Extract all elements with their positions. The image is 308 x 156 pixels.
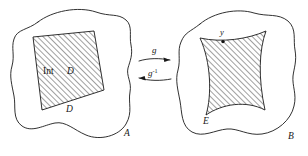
figure-canvas: Int D D A y E B g g-1	[0, 0, 308, 156]
region-e-shape	[200, 31, 266, 115]
set-a-label: A	[123, 128, 130, 138]
region-e-label: E	[202, 116, 209, 126]
forward-arrow-head	[164, 57, 171, 62]
region-d-boundary-label: D	[65, 104, 73, 114]
int-d-prefix-label: Int	[43, 66, 54, 76]
inverse-map-label: g-1	[148, 67, 158, 78]
int-d-name-label: D	[66, 66, 74, 76]
diagram-svg: Int D D A y E B g g-1	[0, 0, 308, 156]
inverse-map-exponent: -1	[153, 67, 158, 74]
point-y-marker	[221, 40, 224, 43]
point-y-label: y	[219, 27, 224, 37]
inverse-arrow-head	[139, 76, 146, 80]
forward-map-label: g	[152, 45, 157, 55]
set-b-label: B	[288, 131, 294, 141]
